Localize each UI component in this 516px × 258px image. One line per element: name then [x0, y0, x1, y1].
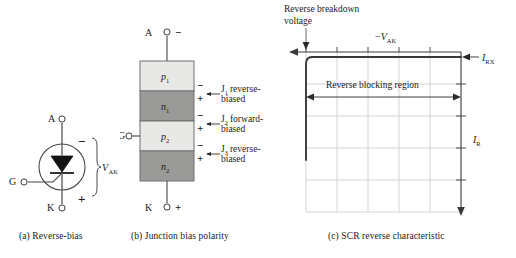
breakdown-arrowhead	[303, 42, 310, 50]
voltage-brace	[92, 138, 101, 196]
anode-label: A	[48, 113, 56, 124]
junction-stack-drawing: A − p1 n1 p2 n2 G	[120, 0, 285, 225]
j1-label-line2: biased	[221, 94, 246, 104]
anode-polarity-sign: −	[175, 26, 181, 38]
reverse-characteristic-curve	[306, 57, 461, 160]
cathode-label: K	[47, 202, 55, 213]
x-axis-arrowhead	[289, 48, 298, 56]
j2-label-line2: biased	[221, 124, 246, 134]
gate-label-b: G	[120, 130, 125, 141]
reverse-characteristic-chart: Reverse breakdown voltage −VAK Reverse b…	[283, 0, 516, 225]
blocking-region-label: Reverse blocking region	[326, 80, 419, 90]
voltage-label: VAK	[102, 162, 118, 175]
ir-label: IR	[472, 134, 481, 147]
diode-triangle-icon	[51, 156, 73, 172]
figure-scr-reverse-bias: A G K − + VAK	[0, 0, 516, 258]
blocking-region-arrowhead-left	[306, 94, 314, 101]
blocking-region-arrowhead-right	[453, 94, 461, 101]
gate-terminal-node-b	[126, 133, 132, 139]
panel-c-reverse-characteristic: Reverse breakdown voltage −VAK Reverse b…	[283, 0, 516, 225]
gate-label: G	[9, 176, 16, 187]
scr-symbol-drawing: A G K − + VAK	[0, 0, 125, 225]
j1-arrowhead	[206, 92, 211, 96]
x-axis-title: −VAK	[375, 31, 396, 44]
breakdown-label-line2: voltage	[284, 16, 312, 26]
chart-gridlines	[306, 52, 461, 212]
plus-sign-bottom: +	[78, 191, 85, 206]
y-axis-arrowhead	[457, 207, 465, 216]
j2-minus-sign: −	[197, 109, 203, 121]
cathode-polarity-sign: +	[175, 201, 181, 213]
anode-label-b: A	[145, 27, 153, 38]
voltage-subscript: AK	[109, 168, 119, 175]
gate-terminal-node	[21, 179, 27, 185]
j3-arrowhead	[206, 152, 211, 156]
gate-lead-angled	[53, 174, 61, 182]
irx-arrowhead	[462, 54, 470, 61]
cathode-terminal-node-b	[164, 204, 170, 210]
breakdown-label-line1: Reverse breakdown	[284, 4, 359, 14]
anode-terminal-node-b	[164, 29, 170, 35]
caption-panel-c: (c) SCR reverse characteristic	[328, 231, 445, 241]
panel-b-junction-bias: A − p1 n1 p2 n2 G	[120, 0, 285, 225]
j3-label-line2: biased	[221, 154, 246, 164]
irx-label: IRX	[481, 52, 495, 65]
j2-arrowhead	[206, 122, 211, 126]
anode-terminal-node	[59, 116, 65, 122]
j3-minus-sign: −	[197, 139, 203, 151]
cathode-label-b: K	[145, 202, 153, 213]
panel-a-reverse-bias: A G K − + VAK	[0, 0, 125, 225]
j3-plus-sign: +	[197, 152, 203, 164]
j1-plus-sign: +	[197, 92, 203, 104]
caption-panel-a: (a) Reverse-bias	[19, 231, 83, 241]
minus-sign-top: −	[78, 134, 85, 149]
cathode-terminal-node	[59, 205, 65, 211]
x-axis-ticks	[306, 47, 430, 52]
caption-panel-b: (b) Junction bias polarity	[131, 231, 229, 241]
j1-minus-sign: −	[197, 79, 203, 91]
j2-plus-sign: +	[197, 122, 203, 134]
